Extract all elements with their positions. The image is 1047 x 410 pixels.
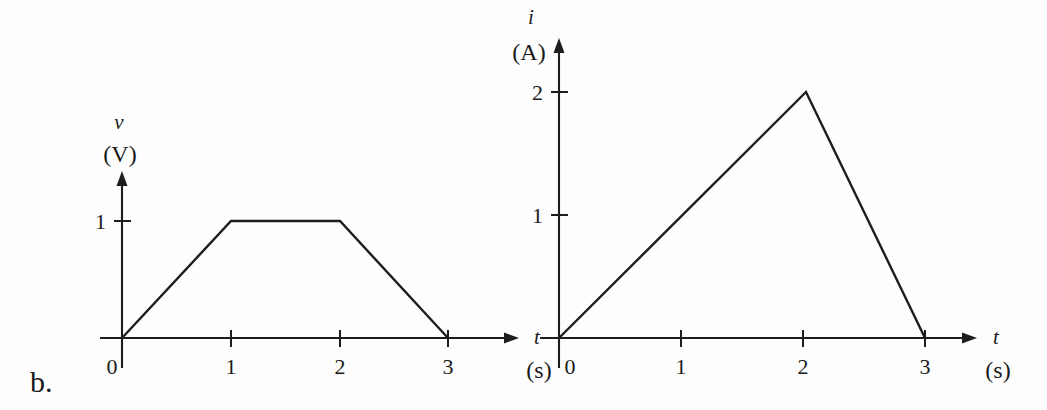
part-label: b. xyxy=(30,365,53,398)
right-xtick-0-label: 0 xyxy=(565,354,576,379)
figure-container: b. 1 0 1 2 3 v (V) t (s) xyxy=(0,0,1047,410)
waveform-figure: b. 1 0 1 2 3 v (V) t (s) xyxy=(0,0,1047,410)
left-xtick-0-label: 0 xyxy=(107,354,118,379)
right-y-axis-unit-label: (A) xyxy=(512,39,545,65)
left-y-axis-variable-label: v xyxy=(114,110,124,134)
right-plot-group: 1 2 0 1 2 3 i (A) t (s) xyxy=(512,5,1010,383)
left-x-axis-arrowhead xyxy=(504,333,519,344)
voltage-waveform-curve xyxy=(122,221,448,338)
right-ytick-1-label: 1 xyxy=(532,203,543,228)
left-xtick-1-label: 1 xyxy=(226,354,237,379)
left-y-axis-unit-label: (V) xyxy=(103,141,136,167)
left-plot-group: 1 0 1 2 3 v (V) t (s) xyxy=(95,110,552,383)
right-x-axis-arrowhead xyxy=(962,333,977,344)
left-xtick-2-label: 2 xyxy=(335,354,346,379)
right-y-axis-variable-label: i xyxy=(528,5,534,29)
left-y-axis-arrowhead xyxy=(117,171,128,186)
right-xtick-1-label: 1 xyxy=(676,354,687,379)
right-ytick-2-label: 2 xyxy=(532,80,543,105)
current-waveform-curve xyxy=(559,92,925,338)
left-xtick-3-label: 3 xyxy=(443,354,454,379)
right-xtick-3-label: 3 xyxy=(920,354,931,379)
right-x-axis-variable-label: t xyxy=(993,325,1000,349)
right-y-axis-arrowhead xyxy=(554,38,565,53)
right-x-axis-unit-label: (s) xyxy=(985,357,1010,383)
left-x-axis-unit-label: (s) xyxy=(526,357,551,383)
left-ytick-1-label: 1 xyxy=(95,209,106,234)
right-xtick-2-label: 2 xyxy=(798,354,809,379)
